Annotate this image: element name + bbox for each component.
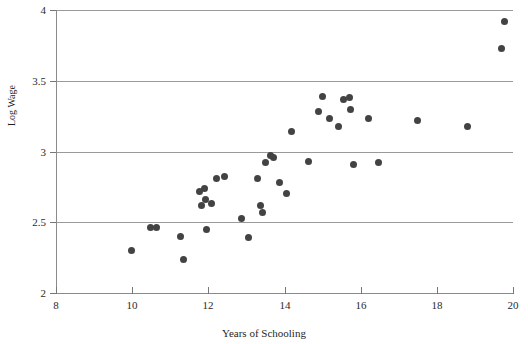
gridline-y [56, 10, 513, 11]
data-point [180, 256, 187, 263]
x-tick-mark [208, 287, 209, 294]
x-axis-title: Years of Schooling [0, 327, 528, 339]
data-point [305, 158, 312, 165]
gridline-y [56, 222, 513, 223]
y-tick-mark [50, 10, 56, 11]
data-point [498, 45, 505, 52]
y-tick-label: 2 [6, 288, 46, 299]
data-point [177, 233, 184, 240]
data-point [288, 128, 295, 135]
x-tick-label: 16 [341, 300, 381, 311]
data-point [335, 123, 342, 130]
data-point [319, 93, 326, 100]
y-axis-line [56, 10, 57, 294]
gridline-y [56, 81, 513, 82]
x-tick-label: 14 [265, 300, 305, 311]
x-tick-mark [132, 287, 133, 294]
x-tick-mark [56, 287, 57, 294]
data-point [238, 215, 245, 222]
x-tick-mark [285, 287, 286, 294]
data-point [346, 94, 353, 101]
y-tick-mark [50, 222, 56, 223]
gridline-y [56, 152, 513, 153]
data-point [464, 123, 471, 130]
data-point [201, 185, 208, 192]
scatter-chart: 22.533.54 8101214161820 Years of Schooli… [0, 0, 528, 344]
y-axis-title: Log Wage [6, 85, 17, 126]
y-tick-label: 3 [6, 147, 46, 158]
data-point [259, 209, 266, 216]
y-tick-mark [50, 81, 56, 82]
x-tick-label: 10 [112, 300, 152, 311]
data-point [350, 161, 357, 168]
data-point [414, 117, 421, 124]
data-point [501, 18, 508, 25]
x-tick-label: 12 [188, 300, 228, 311]
y-tick-mark [50, 152, 56, 153]
data-point [203, 226, 210, 233]
x-tick-label: 20 [493, 300, 528, 311]
x-tick-mark [513, 287, 514, 294]
data-point [347, 106, 354, 113]
x-tick-mark [437, 287, 438, 294]
y-tick-label: 4 [6, 5, 46, 16]
x-tick-mark [361, 287, 362, 294]
data-point [128, 247, 135, 254]
y-tick-label: 2.5 [6, 217, 46, 228]
x-tick-label: 8 [36, 300, 76, 311]
data-point [270, 154, 277, 161]
x-tick-label: 18 [417, 300, 457, 311]
